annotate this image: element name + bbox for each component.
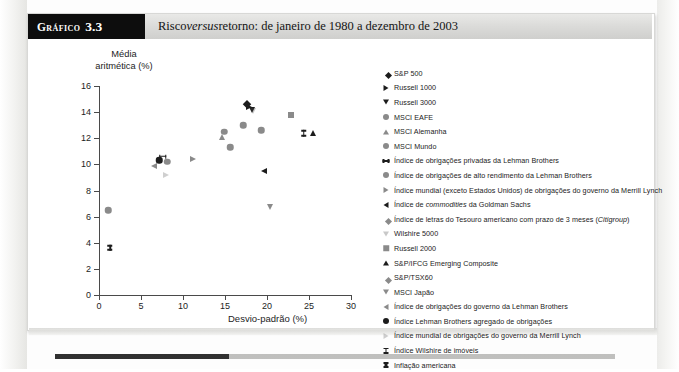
y-axis-tick-label: 4 <box>86 238 91 248</box>
triangle-up-marker-icon <box>310 130 316 136</box>
i-bar-bold-marker-icon <box>384 362 389 368</box>
legend-marker <box>378 95 394 110</box>
data-point <box>164 159 171 166</box>
legend-marker <box>378 124 394 139</box>
legend-label: Índice de commodities da Goldman Sachs <box>394 200 531 209</box>
legend-label: Índice de obrigações privadas da Lehman … <box>394 156 559 165</box>
y-axis-tick <box>94 269 99 270</box>
diamond-marker-icon <box>385 218 392 225</box>
triangle-down-open-marker-icon <box>383 231 389 236</box>
figure-title-pre: Risco <box>158 19 186 34</box>
legend-marker <box>378 110 394 125</box>
legend-label: S&P 500 <box>394 69 423 78</box>
legend-label: S&P/TSX60 <box>394 273 433 282</box>
data-point <box>301 130 307 137</box>
triangle-right-open-marker-icon <box>163 172 169 178</box>
legend-marker <box>378 343 394 358</box>
data-point <box>227 144 234 151</box>
legend-label: MSCI Alemanha <box>394 127 447 136</box>
triangle-right-marker-icon <box>384 187 389 193</box>
legend-item: Índice de commodities da Goldman Sachs <box>378 197 650 212</box>
i-bar-bold-marker-icon <box>107 245 113 252</box>
legend-marker <box>378 227 394 242</box>
legend-marker <box>378 270 394 285</box>
h-bar-marker-icon <box>383 159 390 163</box>
legend-marker <box>378 212 394 227</box>
legend-item: MSCI Mundo <box>378 139 650 154</box>
y-axis-label-line2: aritmética (%) <box>95 61 152 71</box>
y-axis-tick-label: 16 <box>81 81 91 91</box>
data-point <box>250 108 256 114</box>
legend-marker <box>378 300 394 315</box>
triangle-up-marker-icon <box>219 134 225 140</box>
legend-item: S&P/IFCG Emerging Composite <box>378 256 650 271</box>
circle-marker-icon <box>383 172 389 178</box>
legend-label: Índice de obrigações do governo da Lehma… <box>394 302 568 311</box>
legend-marker <box>378 183 394 198</box>
data-point <box>156 157 163 164</box>
circle-marker-icon <box>164 159 171 166</box>
legend-marker <box>378 197 394 212</box>
circle-marker-icon <box>105 207 112 214</box>
x-axis-tick <box>99 295 100 300</box>
x-axis-tick <box>225 295 226 300</box>
y-axis-tick-label: 2 <box>86 264 91 274</box>
y-axis-line <box>99 86 100 295</box>
legend-item: Índice de obrigações privadas da Lehman … <box>378 154 650 169</box>
legend-label: Russell 3000 <box>394 98 436 107</box>
y-axis-tick <box>94 86 99 87</box>
legend-label: Índice mundial de obrigações do governo … <box>394 331 581 340</box>
legend-marker <box>378 66 394 81</box>
circle-marker-icon <box>156 157 163 164</box>
x-axis-tick <box>351 295 352 300</box>
legend-item: Índice de letras do Tesouro americano co… <box>378 212 650 227</box>
diamond-marker-icon <box>385 72 392 79</box>
y-axis-tick <box>94 191 99 192</box>
triangle-down-marker-icon <box>383 290 389 295</box>
triangle-right-open-marker-icon <box>384 333 389 339</box>
data-point <box>310 130 316 136</box>
x-axis-tick-label: 30 <box>346 301 356 311</box>
y-axis-tick <box>94 138 99 139</box>
x-axis-tick <box>183 295 184 300</box>
triangle-left-marker-icon <box>261 168 267 174</box>
x-axis-tick <box>267 295 268 300</box>
legend-item: Índice Lehman Brothers agregado de obrig… <box>378 314 650 329</box>
y-axis-tick <box>94 164 99 165</box>
legend-item: Russell 2000 <box>378 241 650 256</box>
y-axis-tick-label: 8 <box>86 186 91 196</box>
y-axis-tick-label: 14 <box>81 107 91 117</box>
triangle-up-marker-icon <box>383 129 389 134</box>
i-bar-marker-icon <box>384 348 389 354</box>
triangle-down-marker-icon <box>383 100 389 105</box>
x-axis-tick-label: 5 <box>138 301 143 311</box>
legend-item: Índice Wilshire de imóveis <box>378 343 650 358</box>
legend-label: Índice de obrigações de alto rendimento … <box>394 171 592 180</box>
diamond-marker-icon <box>385 277 392 284</box>
x-axis-tick-label: 0 <box>96 301 101 311</box>
circle-marker-icon <box>383 114 389 120</box>
legend-item: S&P/TSX60 <box>378 270 650 285</box>
y-axis-tick-label: 6 <box>86 212 91 222</box>
circle-marker-icon <box>227 144 234 151</box>
triangle-left-marker-icon <box>384 202 389 208</box>
figure-title-post: retorno: de janeiro de 1980 a dezembro d… <box>218 19 458 34</box>
legend-label: Wilshire 5000 <box>394 229 438 238</box>
x-axis-label: Desvio-padrão (%) <box>228 313 307 324</box>
figure-tag: Gráfico 3.3 <box>28 14 145 39</box>
legend-item: S&P 500 <box>378 66 650 81</box>
y-axis-label: Média aritmética (%) <box>64 49 184 72</box>
legend-item: Índice mundial de obrigações do governo … <box>378 329 650 344</box>
legend-item: Inflação americana <box>378 358 650 372</box>
legend-marker <box>378 154 394 169</box>
legend-label: MSCI EAFE <box>394 113 433 122</box>
y-axis-tick <box>94 217 99 218</box>
legend-item: MSCI Alemanha <box>378 124 650 139</box>
circle-marker-icon <box>258 127 265 134</box>
legend-label: Índice Wilshire de imóveis <box>394 346 478 355</box>
data-point <box>240 122 247 129</box>
data-point <box>267 204 273 210</box>
data-point <box>190 156 196 162</box>
y-axis-tick <box>94 243 99 244</box>
chart-area: Média aritmética (%) 0246810121416051015… <box>28 41 652 327</box>
